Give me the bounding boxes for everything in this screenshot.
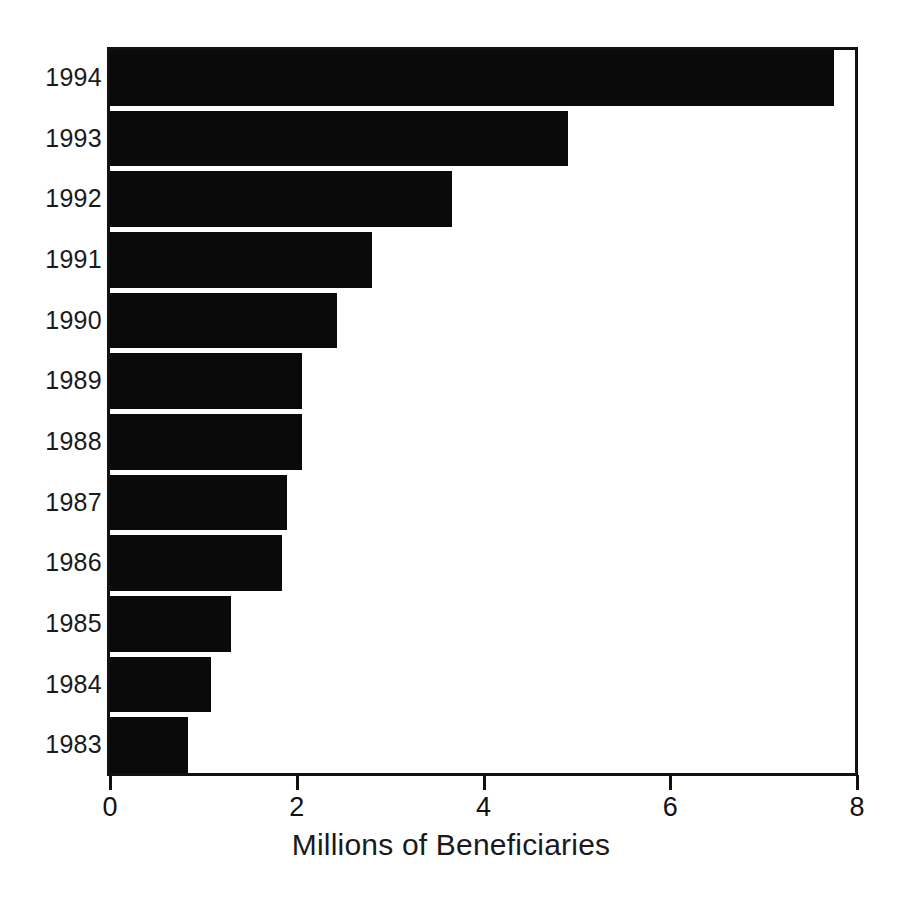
bar-1992 [110,171,452,227]
y-tick-label-1993: 1993 [2,126,102,151]
plot-area [110,47,857,775]
y-tick-label-1991: 1991 [2,247,102,272]
x-tick-mark-4 [483,775,486,790]
bar-1983 [110,717,188,773]
bar-row [110,111,857,167]
bar-1986 [110,535,282,591]
bar-row [110,535,857,591]
bar-1987 [110,475,287,531]
y-tick-label-1990: 1990 [2,308,102,333]
x-axis-title: Millions of Beneficiaries [0,826,902,864]
y-tick-label-1987: 1987 [2,490,102,515]
x-tick-mark-6 [669,775,672,790]
y-tick-label-1989: 1989 [2,368,102,393]
x-tick-label-6: 6 [640,792,700,822]
bar-chart: 1994199319921991199019891988198719861985… [0,0,902,908]
y-tick-label-1988: 1988 [2,429,102,454]
bar-1988 [110,414,302,470]
y-tick-label-1985: 1985 [2,611,102,636]
x-tick-label-4: 4 [454,792,514,822]
bar-1985 [110,596,231,652]
bar-row [110,50,857,106]
y-tick-label-1992: 1992 [2,186,102,211]
bar-row [110,657,857,713]
x-tick-mark-8 [856,775,859,790]
x-tick-label-8: 8 [827,792,887,822]
bar-row [110,414,857,470]
bar-1991 [110,232,372,288]
bar-1984 [110,657,211,713]
bar-row [110,232,857,288]
bar-row [110,353,857,409]
x-tick-label-2: 2 [267,792,327,822]
x-tick-mark-2 [296,775,299,790]
bar-row [110,293,857,349]
bar-1994 [110,50,834,106]
x-tick-mark-0 [109,775,112,790]
bar-row [110,475,857,531]
bar-row [110,596,857,652]
y-tick-label-1984: 1984 [2,672,102,697]
bar-row [110,717,857,773]
y-tick-label-1994: 1994 [2,65,102,90]
bar-1989 [110,353,302,409]
y-tick-label-1983: 1983 [2,732,102,757]
y-tick-label-1986: 1986 [2,550,102,575]
bar-1990 [110,293,337,349]
y-axis-tick-labels: 1994199319921991199019891988198719861985… [0,47,102,775]
x-tick-label-0: 0 [80,792,140,822]
bar-1993 [110,111,568,167]
bar-row [110,171,857,227]
